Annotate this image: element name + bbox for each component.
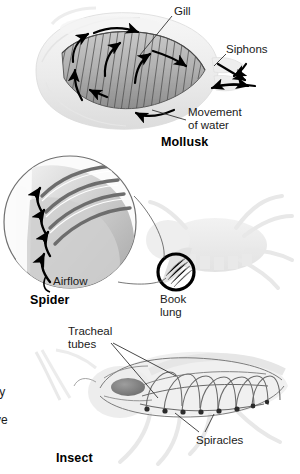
label-tracheal-tubes-line1: Tracheal bbox=[68, 325, 112, 338]
label-siphons: Siphons bbox=[226, 43, 268, 56]
diagram-artwork bbox=[0, 0, 300, 474]
figure-page: Gill Siphons Movement of water Mollusk A… bbox=[0, 0, 300, 474]
label-spiracles: Spiracles bbox=[196, 434, 243, 447]
spider-illustration bbox=[4, 156, 292, 294]
label-movement-of-water-line1: Movement bbox=[188, 106, 242, 119]
caption-insect: Insect bbox=[56, 452, 93, 465]
clipped-text-top: ty bbox=[0, 386, 5, 399]
label-book-lung-line2: lung bbox=[160, 306, 182, 319]
insect-illustration bbox=[36, 343, 288, 464]
label-airflow: Airflow bbox=[53, 275, 88, 288]
caption-spider: Spider bbox=[30, 294, 70, 307]
label-tracheal-tubes-line2: tubes bbox=[68, 338, 96, 351]
label-book-lung-line1: Book bbox=[160, 293, 186, 306]
caption-mollusk: Mollusk bbox=[161, 136, 208, 149]
label-movement-of-water-line2: of water bbox=[188, 119, 229, 132]
clipped-text-bottom: ve bbox=[0, 414, 8, 427]
label-gill: Gill bbox=[174, 5, 191, 18]
